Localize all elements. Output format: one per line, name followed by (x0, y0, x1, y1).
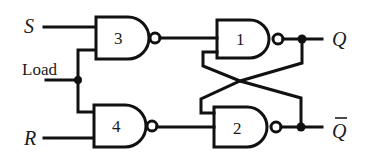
nand-gate-2: 2 (214, 107, 281, 147)
output-label-q: Q (332, 28, 347, 50)
input-label-load: Load (22, 60, 57, 79)
nand-gate-3: 3 (96, 17, 160, 59)
junction-dot-load (74, 76, 82, 84)
svg-text:2: 2 (233, 119, 242, 138)
nand-gate-4: 4 (94, 105, 157, 147)
input-label-r: R (23, 127, 36, 149)
output-label-q-bar: Q (332, 118, 347, 142)
svg-text:4: 4 (112, 117, 121, 136)
latch-diagram: S Load R Q Q 3 4 1 2 (0, 0, 380, 156)
svg-text:3: 3 (114, 29, 123, 48)
nand-gate-1: 1 (217, 20, 283, 58)
svg-text:Q: Q (332, 120, 347, 142)
svg-text:1: 1 (236, 30, 245, 49)
input-label-s: S (24, 15, 34, 37)
